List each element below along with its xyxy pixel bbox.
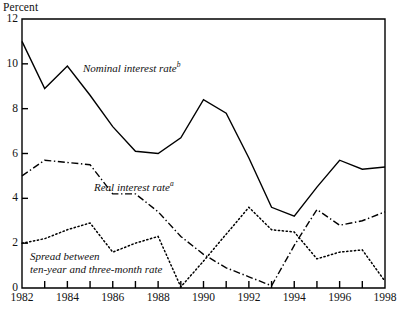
annotation-real-superscript: a xyxy=(170,179,174,188)
interest-rate-line-chart: Percent Nominal interest rateb Real inte… xyxy=(0,0,406,322)
y-tick-label: 6 xyxy=(0,147,18,159)
x-tick-label: 1988 xyxy=(138,291,178,303)
x-tick-label: 1996 xyxy=(320,291,360,303)
x-tick-label: 1992 xyxy=(229,291,269,303)
x-tick-label: 1998 xyxy=(365,291,405,303)
annotation-real-text: Real interest rate xyxy=(94,181,170,193)
x-tick-label: 1994 xyxy=(274,291,314,303)
x-tick-label: 1982 xyxy=(2,291,42,303)
annotation-spread: Spread between ten-year and three-month … xyxy=(30,250,162,275)
y-tick-label: 8 xyxy=(0,102,18,114)
annotation-spread-line1: Spread between xyxy=(30,250,162,263)
plot-frame xyxy=(22,19,385,288)
x-tick-label: 1990 xyxy=(184,291,224,303)
y-tick-label: 10 xyxy=(0,57,18,69)
annotation-real-interest-rate: Real interest ratea xyxy=(94,178,174,193)
annotation-nominal-superscript: b xyxy=(177,60,181,69)
annotation-nominal-text: Nominal interest rate xyxy=(83,62,177,74)
y-tick-label: 12 xyxy=(0,12,18,24)
x-tick-label: 1984 xyxy=(47,291,87,303)
annotation-nominal-interest-rate: Nominal interest rateb xyxy=(83,59,180,74)
series-line-0 xyxy=(22,41,385,216)
y-tick-label: 4 xyxy=(0,191,18,203)
annotation-spread-line2: ten-year and three-month rate xyxy=(30,263,162,276)
x-tick-label: 1986 xyxy=(93,291,133,303)
y-tick-label: 2 xyxy=(0,236,18,248)
